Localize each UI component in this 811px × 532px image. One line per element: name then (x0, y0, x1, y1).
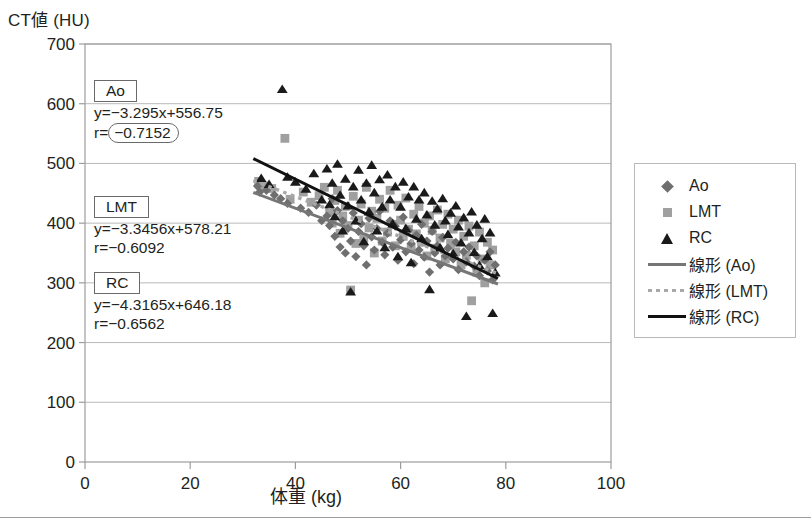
legend-item-lmt: LMT (635, 199, 795, 225)
annotation-lmt-r: r=−0.6092 (94, 239, 231, 257)
legend-item-trend-rc: 線形 (RC) (635, 303, 795, 329)
data-point-rc (374, 175, 385, 184)
square-marker-icon (645, 208, 689, 217)
data-point-rc (322, 164, 333, 173)
data-point-rc (308, 169, 319, 178)
annotation-lmt-tag: LMT (94, 196, 149, 218)
data-point-rc (353, 165, 364, 174)
annotation-rc-r: r=−0.6562 (94, 315, 231, 333)
data-point-rc (437, 194, 448, 203)
y-tick-label: 400 (47, 214, 75, 233)
y-tick-label: 500 (47, 154, 75, 173)
data-point-lmt (467, 296, 476, 305)
data-point-rc (385, 195, 396, 204)
data-point-ao (341, 248, 350, 257)
annotation-rc-equation: y=−4.3165x+646.18 (94, 296, 231, 314)
y-tick-label: 300 (47, 274, 75, 293)
data-point-ao (380, 250, 389, 259)
data-point-rc (393, 252, 404, 261)
dotted-gray-line-icon (645, 289, 689, 292)
data-point-lmt (349, 192, 358, 201)
annotation-ao-tag: Ao (94, 80, 137, 102)
data-point-rc (461, 311, 472, 320)
annotation-rc-r-prefix: r= (94, 315, 108, 332)
annotation-lmt: LMT y=−3.3456x+578.21 r=−0.6092 (94, 196, 231, 257)
annotation-lmt-equation: y=−3.3456x+578.21 (94, 220, 231, 238)
legend-label-ao: Ao (689, 177, 709, 195)
annotation-lmt-r-value: −0.6092 (108, 239, 164, 256)
y-tick-label: 100 (47, 393, 75, 412)
y-tick-label: 200 (47, 334, 75, 353)
legend-item-trend-lmt: 線形 (LMT) (635, 277, 795, 303)
y-tick-label: 600 (47, 95, 75, 114)
footer-divider (0, 517, 811, 518)
legend-item-rc: RC (635, 225, 795, 251)
data-point-rc (366, 160, 377, 169)
annotation-rc-tag: RC (94, 272, 140, 294)
annotation-rc-r-value: −0.6562 (108, 315, 164, 332)
annotation-ao-r-prefix: r= (94, 124, 108, 141)
data-point-rc (327, 178, 338, 187)
data-point-rc (424, 285, 435, 294)
data-point-rc (382, 170, 393, 179)
data-point-rc (485, 228, 496, 237)
legend-item-ao: Ao (635, 173, 795, 199)
legend-item-trend-ao: 線形 (Ao) (635, 251, 795, 277)
triangle-marker-icon (645, 233, 689, 244)
data-point-rc (348, 182, 359, 191)
legend-label-lmt: LMT (689, 203, 721, 221)
data-point-lmt (280, 134, 289, 143)
annotation-lmt-r-prefix: r= (94, 239, 108, 256)
legend-label-rc: RC (689, 229, 712, 247)
annotation-ao-r: r=−0.7152 (94, 123, 223, 143)
data-point-rc (340, 174, 351, 183)
data-point-ao (351, 252, 360, 261)
data-point-rc (479, 214, 490, 223)
legend-label-trend-ao: 線形 (Ao) (689, 252, 756, 276)
annotation-ao-equation: y=−3.295x+556.75 (94, 104, 223, 122)
data-point-ao (336, 242, 345, 251)
data-point-rc (466, 207, 477, 216)
annotation-ao: Ao y=−3.295x+556.75 r=−0.7152 (94, 80, 223, 143)
data-point-rc (487, 308, 498, 317)
solid-black-line-icon (645, 315, 689, 318)
annotation-rc: RC y=−4.3165x+646.18 r=−0.6562 (94, 272, 231, 333)
x-axis-title: 体重 (kg) (0, 482, 612, 508)
y-tick-label: 0 (66, 453, 75, 472)
legend-label-trend-rc: 線形 (RC) (689, 304, 759, 328)
data-point-rc (361, 178, 372, 187)
data-point-ao (425, 268, 434, 277)
data-point-rc (398, 177, 409, 186)
y-tick-label: 700 (47, 35, 75, 54)
chart-legend: Ao LMT RC 線形 (Ao) 線形 (LMT) 線形 (RC) (634, 163, 796, 338)
data-point-rc (427, 196, 438, 205)
data-point-rc (408, 182, 419, 191)
data-point-rc (277, 84, 288, 93)
data-point-ao (362, 260, 371, 269)
chart-page: CT値 (HU) 0100200300400500600700020406080… (0, 0, 811, 532)
data-point-rc (419, 188, 430, 197)
legend-label-trend-lmt: 線形 (LMT) (689, 278, 768, 302)
diamond-marker-icon (645, 182, 689, 191)
solid-gray-line-icon (645, 263, 689, 266)
data-point-rc (450, 201, 461, 210)
annotation-ao-r-value: −0.7152 (108, 123, 178, 143)
